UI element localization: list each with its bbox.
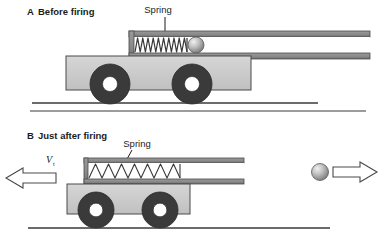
cart-recoil-velocity-subscript: t — [53, 160, 55, 167]
panel-b-wheel-rear-hub — [89, 203, 103, 217]
panel-b-spring-callout-label: Spring — [123, 138, 150, 149]
panel-a-caption: Before firing — [38, 6, 95, 17]
panel-b-caption: Just after firing — [38, 130, 107, 141]
panel-a: A Before firing Spring — [27, 4, 370, 104]
panel-b: B Just after firing Spring — [6, 130, 377, 228]
diagram-canvas: A Before firing Spring — [0, 0, 383, 239]
physics-figure: A Before firing Spring — [0, 0, 383, 239]
panel-a-letter: A — [27, 6, 34, 17]
panel-a-wheel-front-hub — [185, 77, 200, 92]
panel-b-wheel-front-hub — [153, 203, 167, 217]
panel-b-letter: B — [27, 130, 34, 141]
panel-a-wheel-front — [172, 64, 212, 104]
panel-b-wheel-rear — [78, 192, 114, 228]
panel-a-wheel-rear — [90, 64, 130, 104]
cart-recoil-velocity-label: V t — [46, 154, 55, 167]
panel-a-wheel-rear-hub — [103, 77, 118, 92]
panel-a-ball — [188, 37, 204, 53]
cart-recoil-arrow — [6, 168, 56, 188]
ball-velocity-arrow — [333, 162, 377, 182]
panel-b-barrel-upper-rail — [84, 158, 244, 163]
panel-b-ball — [312, 164, 329, 181]
panel-b-barrel-lower-rail — [84, 179, 244, 184]
panel-a-spring-callout-label: Spring — [144, 4, 171, 15]
panel-a-barrel-upper-rail — [129, 31, 370, 37]
panel-b-wheel-front — [142, 192, 178, 228]
